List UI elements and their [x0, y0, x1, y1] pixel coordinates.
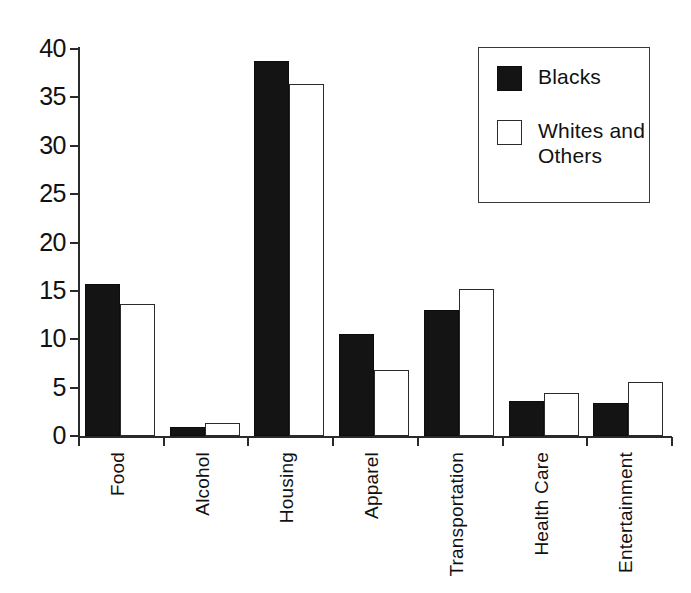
bar-apparel-blacks	[339, 334, 374, 436]
category-label-transportation: Transportation	[447, 452, 466, 577]
legend-label-blacks: Blacks	[538, 64, 601, 89]
bar-entertainment-whites-and-others	[628, 382, 663, 436]
category-label-apparel: Apparel	[362, 452, 381, 519]
bar-health-care-blacks	[509, 401, 544, 436]
bar-entertainment-blacks	[593, 403, 628, 436]
category-label-health-care: Health Care	[532, 452, 551, 556]
bar-health-care-whites-and-others	[544, 393, 579, 436]
bar-food-blacks	[85, 284, 120, 436]
x-tick-2	[247, 437, 249, 446]
x-tick-4	[417, 437, 419, 446]
category-label-entertainment: Entertainment	[616, 452, 635, 573]
bar-housing-whites-and-others	[289, 84, 324, 436]
x-tick-6	[586, 437, 588, 446]
category-label-food: Food	[108, 452, 127, 496]
category-label-alcohol: Alcohol	[193, 452, 212, 516]
chart-legend: Blacks Whites and Others	[478, 47, 650, 203]
y-tick-label-30: 30	[20, 133, 66, 158]
legend-entry-whites-and-others: Whites and Others	[497, 118, 645, 168]
y-tick-label-20: 20	[20, 230, 66, 255]
y-tick-label-35: 35	[20, 84, 66, 109]
legend-entry-blacks: Blacks	[497, 64, 601, 91]
bar-transportation-whites-and-others	[459, 289, 494, 436]
bar-alcohol-whites-and-others	[205, 423, 240, 436]
bar-food-whites-and-others	[120, 304, 155, 436]
x-tick-5	[502, 437, 504, 446]
y-tick-label-5: 5	[20, 375, 66, 400]
filled-square-icon	[497, 66, 522, 91]
x-tick-1	[163, 437, 165, 446]
bar-housing-blacks	[254, 61, 289, 436]
open-square-icon	[497, 120, 522, 145]
legend-label-whites-and-others: Whites and Others	[538, 118, 645, 168]
bar-apparel-whites-and-others	[374, 370, 409, 436]
y-tick-label-15: 15	[20, 278, 66, 303]
x-axis-line	[78, 436, 672, 438]
bar-chart: 0510152025303540 FoodAlcoholHousingAppar…	[0, 0, 691, 593]
x-tick-0	[78, 437, 80, 446]
category-label-housing: Housing	[277, 452, 296, 523]
x-tick-7	[671, 437, 673, 446]
y-tick-label-40: 40	[20, 36, 66, 61]
bar-transportation-blacks	[424, 310, 459, 436]
bar-alcohol-blacks	[170, 427, 205, 436]
y-tick-label-0: 0	[20, 423, 66, 448]
x-tick-3	[332, 437, 334, 446]
y-tick-label-25: 25	[20, 181, 66, 206]
y-tick-label-10: 10	[20, 326, 66, 351]
